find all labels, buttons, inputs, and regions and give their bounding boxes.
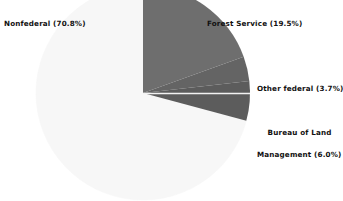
pie-label-blm-line1: Bureau of Land bbox=[268, 128, 332, 137]
pie-label-forest-service: Forest Service (19.5%) bbox=[207, 18, 302, 29]
pie-label-bureau-of-land-management: Bureau of Land Management (6.0%) bbox=[257, 116, 341, 182]
pie-label-blm-line2: Management (6.0%) bbox=[257, 149, 341, 160]
pie-label-nonfederal: Nonfederal (70.8%) bbox=[4, 18, 86, 29]
pie-label-other-federal: Other federal (3.7%) bbox=[257, 83, 343, 94]
